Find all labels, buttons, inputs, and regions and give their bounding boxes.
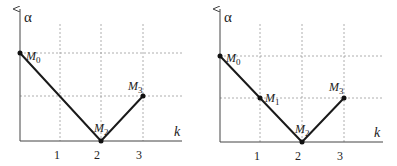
svg-text:3: 3: [337, 149, 343, 163]
x-axis-label: k: [374, 125, 381, 140]
m0-sub: 0: [36, 55, 41, 65]
diagram-canvas: α k 1 2 3 M0 M2 M3 α k 1 2 3 M0 M1 M2 M3: [0, 0, 397, 166]
left-chart: α k 1 2 3 M0 M2 M3: [18, 9, 183, 162]
m3-sub: 3: [339, 86, 344, 96]
point-m2: [99, 139, 104, 144]
point-m0: [218, 54, 223, 59]
svg-text:M1: M1: [264, 91, 280, 107]
y-axis-label: α: [24, 9, 32, 25]
x-axis-label: k: [174, 124, 181, 139]
path-line: [220, 56, 344, 142]
svg-text:M0: M0: [225, 51, 241, 67]
tick-1: 1: [254, 149, 260, 163]
y-axis-label: α: [224, 9, 232, 25]
tick-3: 3: [136, 148, 142, 162]
right-chart: α k 1 2 3 M0 M1 M2 M3: [218, 9, 384, 163]
svg-text:1: 1: [254, 149, 260, 163]
m1-sub: 1: [275, 97, 280, 107]
point-m2: [300, 140, 305, 145]
point-m3: [342, 96, 347, 101]
m3-sub: 3: [138, 85, 143, 95]
m2-sub: 2: [104, 127, 109, 137]
svg-text:M3: M3: [127, 79, 143, 95]
svg-text:M2: M2: [294, 122, 310, 138]
tick-1: 1: [54, 148, 60, 162]
svg-text:k: k: [174, 124, 181, 139]
svg-text:M0: M0: [25, 49, 41, 65]
point-m0: [18, 51, 23, 56]
svg-text:1: 1: [54, 148, 60, 162]
svg-text:3: 3: [136, 148, 142, 162]
m2-sub: 2: [305, 128, 310, 138]
svg-text:2: 2: [295, 149, 301, 163]
svg-text:2: 2: [94, 148, 100, 162]
svg-text:M2: M2: [93, 121, 109, 137]
svg-text:α: α: [24, 9, 32, 25]
tick-3: 3: [337, 149, 343, 163]
point-m1: [258, 96, 263, 101]
svg-text:M3: M3: [328, 80, 344, 96]
m0-sub: 0: [236, 57, 241, 67]
tick-2: 2: [295, 149, 301, 163]
svg-text:k: k: [374, 125, 381, 140]
path-line: [20, 53, 143, 141]
tick-2: 2: [94, 148, 100, 162]
svg-text:α: α: [224, 9, 232, 25]
